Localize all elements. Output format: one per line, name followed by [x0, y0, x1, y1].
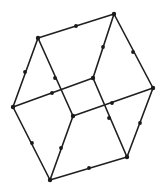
edge-mark-point [50, 91, 54, 95]
vertex-b [48, 178, 52, 182]
edge-mark-point [131, 50, 135, 54]
edge-mark-point [138, 121, 142, 125]
vertex-tl [36, 36, 40, 40]
edge-mark-point [107, 116, 111, 120]
edge-mark-point [87, 166, 91, 170]
edges-group [13, 14, 153, 180]
edge-mark-point [30, 141, 34, 145]
edge-mark-point [110, 101, 114, 105]
edge-mark-point [59, 146, 63, 150]
cube-graph-diagram [0, 0, 168, 196]
vertex-tr [112, 12, 116, 16]
vertex-iu [91, 76, 95, 80]
edge-mark-point [101, 45, 105, 49]
vertex-r [151, 86, 155, 90]
vertex-l [11, 105, 15, 109]
vertex-il [71, 114, 75, 118]
edge-mark-point [53, 76, 57, 80]
edge-mark-point [23, 70, 27, 74]
vertex-br [125, 155, 129, 159]
vertices-group [11, 12, 155, 182]
edge-mark-point [74, 24, 78, 28]
